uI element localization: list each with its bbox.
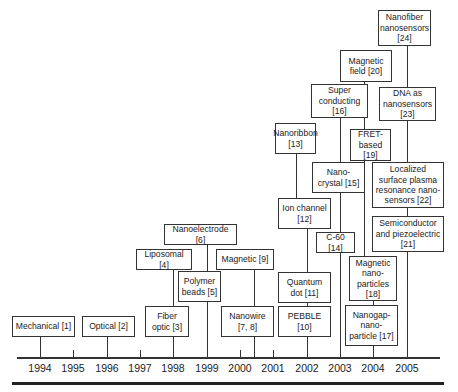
year-label: 1997 (128, 362, 151, 374)
node-superconducting: Super conducting [16] (311, 84, 368, 118)
node-pebble: PEBBLE [10] (278, 306, 331, 337)
node-nanocrystal: Nano- crystal [15] (312, 162, 365, 193)
stem-1996 (107, 336, 108, 357)
year-label: 1994 (28, 362, 51, 374)
node-magnetic: Magnetic [9] (216, 249, 274, 270)
node-dna-nanosensors: DNA as nanosensors [23] (379, 87, 436, 121)
node-liposomal: Liposomal [4] (136, 249, 192, 270)
year-label: 1999 (195, 362, 218, 374)
node-semiconductor-piezoelectric: Semiconductor and piezoelectric [21] (372, 216, 444, 252)
year-label: 2005 (395, 362, 418, 374)
stem-2002b (296, 154, 297, 198)
year-label: 2001 (261, 362, 284, 374)
tick-1995 (73, 350, 74, 358)
node-fret-based: FRET- based [19] (350, 129, 391, 161)
year-label: 2002 (295, 362, 318, 374)
year-label: 1998 (161, 362, 184, 374)
node-optical: Optical [2] (82, 316, 135, 337)
node-quantum-dot: Quantum dot [11] (278, 272, 331, 303)
node-magnetic-field: Magnetic field [20] (340, 50, 392, 82)
stem-1994 (40, 336, 41, 357)
year-label: 2000 (228, 362, 251, 374)
tick-2000 (240, 350, 241, 358)
node-nanoribbon: Nanoribbon [13] (275, 123, 316, 154)
node-polymer-beads: Polymer beads [5] (178, 271, 221, 302)
node-mechanical: Mechanical [1] (12, 316, 75, 337)
bottom-rule (12, 382, 444, 385)
timeline-axis (17, 357, 440, 359)
node-magnetic-nanoparticles: Magnetic nano- particles [18] (349, 256, 397, 301)
tick-2001 (273, 350, 274, 358)
node-lspr-nanosensors: Localized surface plasma resonance nano-… (372, 162, 444, 208)
node-nanoelectrode: Nanoelectrode [6] (164, 224, 237, 245)
node-c60: C-60 [14] (316, 232, 355, 253)
node-nanofiber-nanosensors: Nanofiber nanosensors [24] (378, 10, 431, 46)
year-label: 1996 (95, 362, 118, 374)
tick-1997 (140, 350, 141, 358)
timeline-diagram: 1994 1995 1996 1997 1998 1999 2000 2001 … (0, 0, 458, 392)
year-label: 1995 (61, 362, 84, 374)
node-nanogap-nanoparticle: Nanogap- nano- particle [17] (345, 305, 398, 346)
year-label: 2004 (361, 362, 384, 374)
node-ion-channel: Ion channel [12] (278, 198, 331, 229)
year-label: 2003 (328, 362, 351, 374)
node-fiber-optic: Fiber optic [3] (145, 306, 189, 337)
node-nanowire: Nanowire [7, 8] (221, 306, 274, 337)
